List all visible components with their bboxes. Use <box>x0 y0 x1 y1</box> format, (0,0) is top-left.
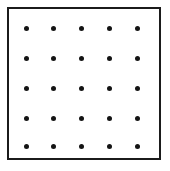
figure-canvas <box>0 0 170 171</box>
grid-border-frame <box>7 7 161 160</box>
